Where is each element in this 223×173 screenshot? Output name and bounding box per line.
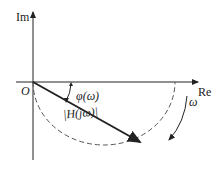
nyquist-plot [0,0,223,173]
frequency-response-locus [33,82,175,145]
re-axis-label: Re [198,86,211,98]
origin-label: O [21,85,30,97]
omega-direction-arrow [169,96,187,140]
phase-label: φ(ω) [76,90,99,102]
omega-label: ω [189,96,197,108]
im-axis-label: Im [16,11,29,23]
magnitude-label: |H(jω)| [63,105,99,120]
